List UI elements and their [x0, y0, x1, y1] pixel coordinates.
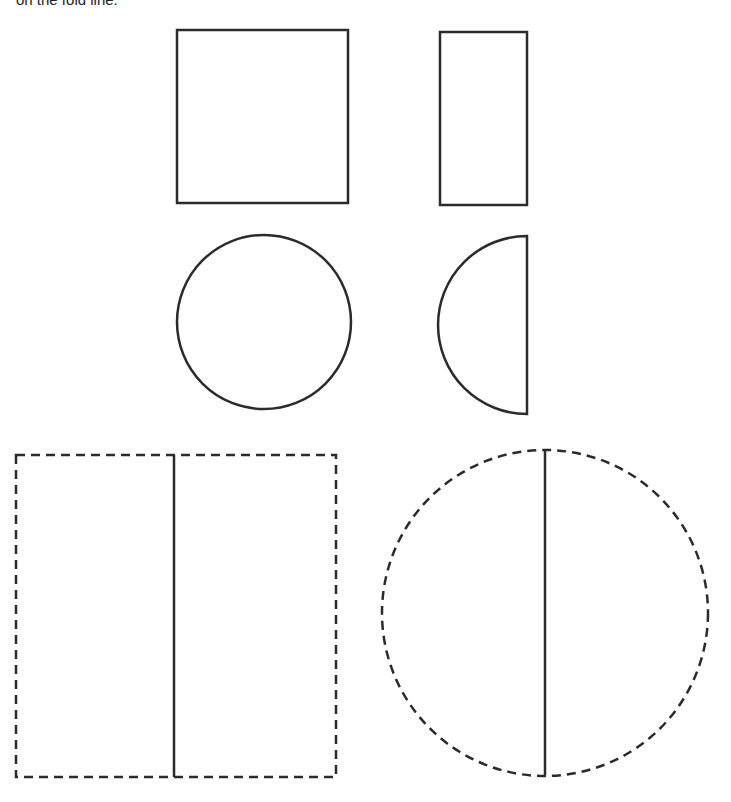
circle-shape — [177, 235, 351, 409]
half-rectangle-shape — [440, 32, 527, 205]
shapes-canvas — [0, 0, 731, 802]
square-shape — [177, 30, 348, 203]
dashed-circle-group — [382, 450, 708, 776]
dashed-rectangle-group — [16, 455, 336, 777]
dashed-rectangle-outline — [16, 455, 336, 777]
half-circle-shape — [438, 236, 527, 414]
